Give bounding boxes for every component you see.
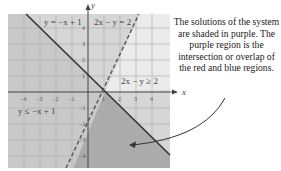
svg-text:−4: −4: [79, 153, 85, 159]
svg-text:−2: −2: [52, 96, 58, 102]
label-ineq1: y ≤ −x + 1: [18, 106, 56, 116]
svg-text:−4: −4: [20, 96, 26, 102]
svg-text:3: 3: [134, 96, 137, 102]
svg-text:4: 4: [82, 25, 85, 31]
svg-text:1: 1: [82, 73, 85, 79]
svg-text:3: 3: [82, 41, 85, 47]
y-axis-label: y: [90, 0, 95, 10]
svg-text:4: 4: [150, 96, 153, 102]
x-axis-arrow-icon: [172, 90, 178, 95]
svg-text:−1: −1: [68, 96, 74, 102]
svg-text:1: 1: [102, 96, 105, 102]
label-line2: 2x − y = 2: [94, 17, 131, 27]
svg-text:−1: −1: [79, 105, 85, 111]
svg-text:−3: −3: [36, 96, 42, 102]
svg-text:−2: −2: [79, 121, 85, 127]
label-line1: y = −x + 1: [44, 17, 82, 27]
x-axis-label: x: [181, 87, 186, 97]
svg-text:2: 2: [118, 96, 121, 102]
svg-text:2: 2: [82, 57, 85, 63]
y-axis-arrow-icon: [86, 4, 91, 10]
label-ineq2: 2x − y ≥ 2: [121, 76, 158, 86]
caption-text: The solutions of the system are shaded i…: [172, 16, 281, 74]
